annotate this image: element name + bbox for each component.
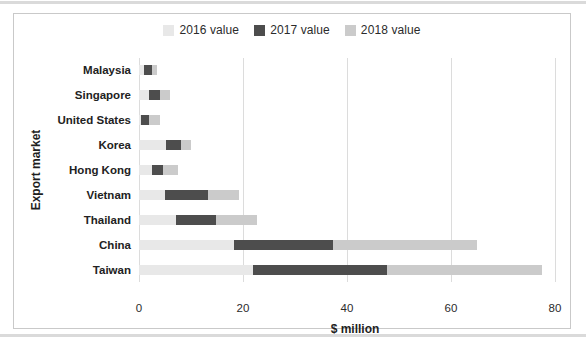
- stacked-bar: [139, 90, 170, 100]
- bar-segment-2018: [160, 90, 170, 100]
- bar-segment-2016: [139, 215, 176, 225]
- category-label: China: [22, 239, 131, 251]
- stacked-bar: [139, 65, 157, 75]
- bar-segment-2018: [216, 215, 257, 225]
- x-tick-label-80: 80: [549, 302, 562, 314]
- legend-swatch-icon: [163, 25, 174, 36]
- legend-item-2017: 2017 value: [254, 23, 330, 37]
- stacked-bar: [139, 265, 542, 275]
- x-axis-ticks: 020406080: [139, 302, 571, 316]
- bar-row-malaysia: Malaysia: [139, 58, 571, 83]
- category-label: Vietnam: [22, 189, 131, 201]
- stacked-bar: [139, 115, 160, 125]
- bar-segment-2016: [139, 240, 234, 250]
- bar-row-thailand: Thailand: [139, 207, 571, 232]
- category-label: Taiwan: [22, 264, 131, 276]
- category-label: Thailand: [22, 214, 131, 226]
- bar-row-china: China: [139, 232, 571, 257]
- bar-segment-2017: [166, 140, 181, 150]
- legend-label: 2017 value: [270, 23, 330, 37]
- bar-segment-2018: [181, 140, 192, 150]
- legend-label: 2016 value: [179, 23, 239, 37]
- bar-segment-2017: [176, 215, 216, 225]
- x-tick-label-60: 60: [445, 302, 458, 314]
- category-label: United States: [22, 114, 131, 126]
- legend-label: 2018 value: [361, 23, 421, 37]
- bar-segment-2018: [152, 65, 157, 75]
- category-label: Malaysia: [22, 64, 131, 76]
- stacked-bar: [139, 215, 257, 225]
- bar-segment-2016: [139, 140, 166, 150]
- bar-row-united-states: United States: [139, 108, 571, 133]
- bar-segment-2018: [208, 190, 239, 200]
- bar-row-hong-kong: Hong Kong: [139, 158, 571, 183]
- chart-panel: 2016 value2017 value2018 value Export ma…: [13, 13, 571, 329]
- page-divider-top: [0, 1, 586, 4]
- legend-item-2018: 2018 value: [345, 23, 421, 37]
- plot-area: MalaysiaSingaporeUnited StatesKoreaHong …: [139, 58, 571, 282]
- bar-segment-2017: [234, 240, 333, 250]
- legend-swatch-icon: [254, 25, 265, 36]
- stacked-bar: [139, 190, 239, 200]
- bar-row-vietnam: Vietnam: [139, 182, 571, 207]
- category-label: Hong Kong: [22, 164, 131, 176]
- category-label: Singapore: [22, 89, 131, 101]
- stacked-bar: [139, 240, 477, 250]
- category-label: Korea: [22, 139, 131, 151]
- bar-segment-2018: [149, 115, 159, 125]
- legend-swatch-icon: [345, 25, 356, 36]
- bar-segment-2016: [139, 190, 165, 200]
- bar-segment-2016: [139, 165, 152, 175]
- chart-legend: 2016 value2017 value2018 value: [14, 23, 570, 37]
- bar-segment-2016: [139, 90, 149, 100]
- page-divider-bottom: [0, 334, 586, 337]
- bar-segment-2017: [149, 90, 159, 100]
- bar-segment-2017: [253, 265, 387, 275]
- legend-item-2016: 2016 value: [163, 23, 239, 37]
- x-tick-label-40: 40: [341, 302, 354, 314]
- stacked-bar: [139, 140, 191, 150]
- bar-segment-2018: [387, 265, 542, 275]
- bar-segment-2018: [163, 165, 178, 175]
- bar-row-korea: Korea: [139, 133, 571, 158]
- stacked-bar: [139, 165, 178, 175]
- bar-segment-2016: [139, 265, 253, 275]
- x-tick-label-20: 20: [237, 302, 250, 314]
- bar-row-singapore: Singapore: [139, 83, 571, 108]
- bar-segment-2018: [333, 240, 477, 250]
- bar-segment-2017: [152, 165, 163, 175]
- bar-segment-2017: [165, 190, 208, 200]
- bar-rows: MalaysiaSingaporeUnited StatesKoreaHong …: [139, 58, 571, 282]
- bar-segment-2017: [144, 65, 152, 75]
- x-tick-label-0: 0: [136, 302, 142, 314]
- bar-segment-2017: [141, 115, 150, 125]
- bar-row-taiwan: Taiwan: [139, 257, 571, 282]
